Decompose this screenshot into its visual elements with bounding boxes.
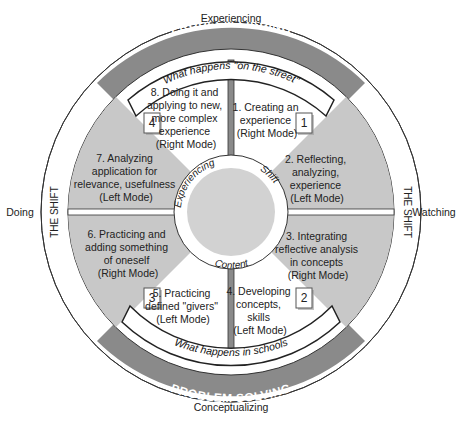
svg-text:1: 1 [301,116,308,130]
axis-top-label: Experiencing [201,12,262,24]
axis-right-label: Watching [412,206,456,218]
center-disc [187,168,275,256]
step-2-text: 2. Reflecting, analyzing, experience (Le… [285,153,349,204]
left-shift-label: THE SHIFT [49,186,60,238]
svg-text:2: 2 [301,291,308,305]
step-5-text: 5. Practicing defined "givers" (Left Mod… [145,287,221,325]
box-1: 1 [296,113,314,135]
4mat-cycle-diagram: PROBLEM FINDING PROBLEM SOLVING What hap… [0,0,460,423]
right-shift-label: THE SHIFT [402,186,413,238]
step-8-text: 8. Doing it and applying to new, more co… [147,86,225,150]
axis-left-label: Doing [6,206,34,218]
axis-bottom-label: Conceptualizing [194,401,269,413]
step-1-text: 1. Creating an experience (Right Mode) [233,101,302,139]
box-2: 2 [296,288,314,310]
